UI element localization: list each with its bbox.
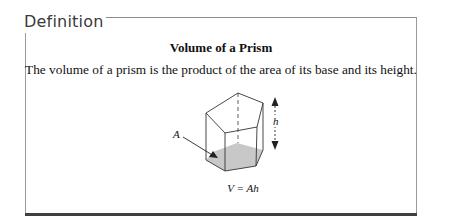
height-label: h [272,115,280,127]
arrow-up-icon [272,97,279,106]
arrow-down-icon [272,141,279,150]
base-area-label: A [173,128,180,140]
volume-formula: V = Ah [218,182,268,194]
base-arrow [183,137,214,156]
